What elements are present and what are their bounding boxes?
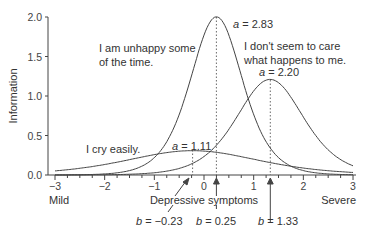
severe-label: Severe (321, 194, 356, 206)
x-tick-label: −2 (99, 180, 111, 192)
x-tick-label: −3 (49, 180, 61, 192)
b-label-dont-care: b = 1.33 (258, 215, 298, 227)
item-label-unhappy: I am unhappy some (99, 42, 196, 54)
item-label-dont-care: what happens to me. (243, 54, 346, 66)
a-label-cry: a = 1.11 (172, 140, 211, 152)
y-tick-label: 2.0 (27, 11, 42, 23)
curve-dont-care (55, 79, 353, 175)
y-axis-title: Information (7, 68, 19, 123)
item-label-cry: I cry easily. (86, 143, 140, 155)
x-tick-label: 2 (300, 180, 306, 192)
y-tick-label: 1.0 (27, 90, 42, 102)
x-tick-label: 0 (201, 180, 207, 192)
y-tick-label: 1.5 (27, 51, 42, 63)
x-tick-label: 3 (350, 180, 356, 192)
item-label-dont-care: I don't seem to care (244, 40, 340, 52)
x-axis-title: Depressive symptoms (150, 194, 259, 206)
item-label-unhappy: of the time. (99, 56, 153, 68)
x-tick-label: −1 (148, 180, 160, 192)
x-tick-label: 1 (251, 180, 257, 192)
b-label-unhappy: b = 0.25 (196, 215, 236, 227)
y-tick-label: 0.0 (27, 169, 42, 181)
a-label-unhappy: a = 2.83 (233, 18, 273, 30)
b-label-cry: b = −0.23 (136, 215, 183, 227)
mild-label: Mild (49, 194, 69, 206)
y-tick-label: 0.5 (27, 130, 42, 142)
item-information-chart: 2.0 1.5 1.0 0.5 0.0 Information −3 −2 −1… (0, 0, 368, 239)
a-label-dont-care: a = 2.20 (259, 66, 299, 78)
